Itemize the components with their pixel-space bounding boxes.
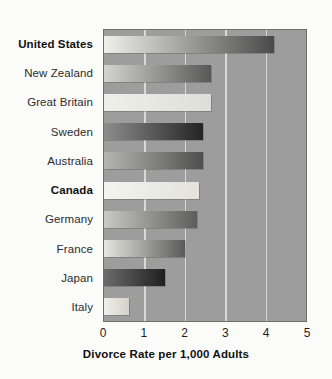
bar-row[interactable] (104, 211, 306, 228)
plot-area (103, 29, 307, 322)
bar-row[interactable] (104, 94, 306, 111)
bar-row[interactable] (104, 240, 306, 257)
category-label-france: France (0, 240, 98, 257)
x-tick-2: 2 (181, 326, 188, 340)
bar-italy[interactable] (104, 298, 129, 315)
x-axis-tick-labels: 012345 (103, 326, 307, 342)
bar-united-states[interactable] (104, 36, 274, 53)
bar-new-zealand[interactable] (104, 65, 211, 82)
category-label-canada: Canada (0, 182, 98, 199)
bar-canada[interactable] (104, 182, 199, 199)
bar-row[interactable] (104, 65, 306, 82)
category-label-germany: Germany (0, 211, 98, 228)
bar-row[interactable] (104, 298, 306, 315)
category-label-italy: Italy (0, 299, 98, 316)
x-tick-5: 5 (304, 326, 311, 340)
bar-france[interactable] (104, 240, 185, 257)
x-tick-3: 3 (222, 326, 229, 340)
bar-row[interactable] (104, 152, 306, 169)
x-tick-0: 0 (100, 326, 107, 340)
bar-japan[interactable] (104, 269, 165, 286)
x-axis-title: Divorce Rate per 1,000 Adults (0, 348, 332, 360)
bar-row[interactable] (104, 36, 306, 53)
category-label-australia: Australia (0, 152, 98, 169)
divorce-rate-bar-chart: United StatesNew ZealandGreat BritainSwe… (0, 0, 332, 379)
category-label-great-britain: Great Britain (0, 94, 98, 111)
bar-germany[interactable] (104, 211, 197, 228)
category-label-sweden: Sweden (0, 123, 98, 140)
bar-sweden[interactable] (104, 123, 203, 140)
bar-row[interactable] (104, 123, 306, 140)
bar-rows (104, 30, 306, 321)
bar-great-britain[interactable] (104, 94, 211, 111)
x-tick-4: 4 (263, 326, 270, 340)
x-tick-1: 1 (140, 326, 147, 340)
category-label-new-zealand: New Zealand (0, 64, 98, 81)
bar-australia[interactable] (104, 152, 203, 169)
category-axis-labels: United StatesNew ZealandGreat BritainSwe… (0, 29, 98, 322)
category-label-japan: Japan (0, 270, 98, 287)
category-label-united-states: United States (0, 35, 98, 52)
bar-row[interactable] (104, 269, 306, 286)
bar-row[interactable] (104, 182, 306, 199)
